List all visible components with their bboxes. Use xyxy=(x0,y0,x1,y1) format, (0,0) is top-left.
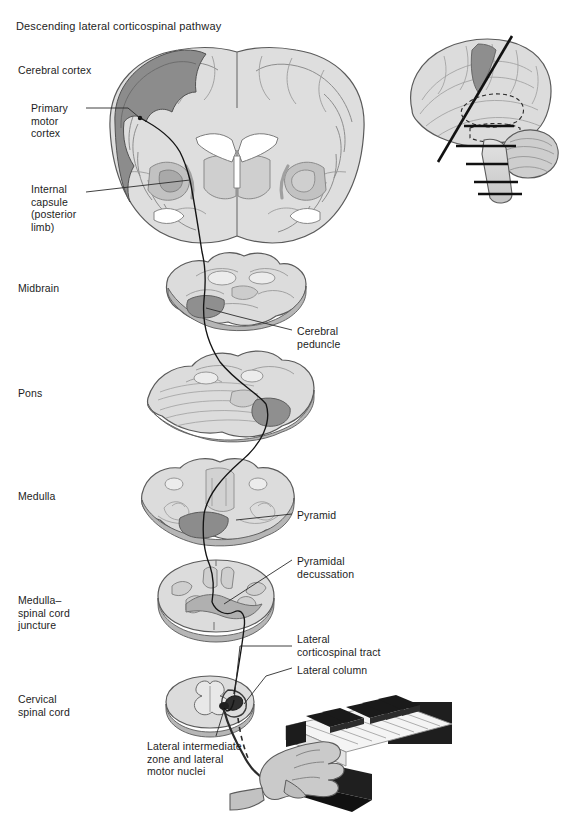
midbrain-section xyxy=(167,253,307,331)
cervical-cord-section xyxy=(166,676,254,737)
label-internal-capsule: Internal capsule (posterior limb) xyxy=(31,183,76,233)
label-pons: Pons xyxy=(18,387,42,400)
label-lateral-intermediate-zone: Lateral intermediate zone and lateral mo… xyxy=(147,740,242,778)
lateral-brain-inset xyxy=(392,22,562,207)
medulla-spinal-juncture-section xyxy=(158,560,274,642)
label-cerebral-peduncle: Cerebral peduncle xyxy=(297,325,340,350)
label-midbrain: Midbrain xyxy=(18,282,59,295)
label-lateral-corticospinal-tract: Lateral corticospinal tract xyxy=(297,633,381,658)
pons-section xyxy=(148,351,314,442)
label-cervical-spinal-cord: Cervical spinal cord xyxy=(18,693,70,718)
label-medulla-spinal-cord-juncture: Medulla– spinal cord juncture xyxy=(18,594,70,632)
label-lateral-column: Lateral column xyxy=(297,664,367,677)
hand-on-piano-illustration xyxy=(230,695,452,812)
label-primary-motor-cortex: Primary motor cortex xyxy=(31,102,68,140)
label-pyramid: Pyramid xyxy=(297,509,336,522)
coronal-cerebrum-section xyxy=(110,48,364,243)
medulla-section xyxy=(142,459,295,546)
label-pyramidal-decussation: Pyramidal decussation xyxy=(297,555,354,580)
label-cerebral-cortex: Cerebral cortex xyxy=(18,64,91,77)
label-medulla: Medulla xyxy=(18,490,55,503)
figure-canvas: Descending lateral corticospinal pathway xyxy=(0,0,562,838)
